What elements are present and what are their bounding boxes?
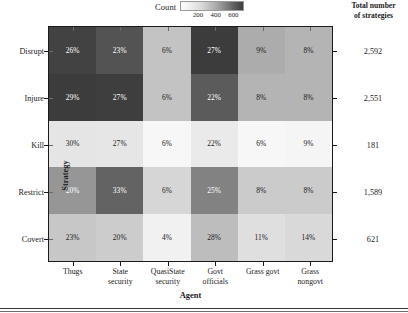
x-axis-tick <box>263 261 264 266</box>
row-label-restrict: Restrict <box>0 188 44 197</box>
y-axis-tick-inner <box>49 192 53 193</box>
heatmap-cell-label: 8% <box>303 46 313 55</box>
legend-tick-labels: 200400600 <box>180 11 242 21</box>
heatmap-cell-label: 8% <box>303 93 313 102</box>
heatmap-cell-label: 26% <box>66 46 80 55</box>
column-label-line: security <box>108 277 133 287</box>
row-total-value: 621 <box>341 235 405 244</box>
heatmap-cell[interactable]: 25% <box>191 167 238 214</box>
heatmap-cell-label: 6% <box>162 93 172 102</box>
row-total-value: 2,551 <box>341 93 405 102</box>
heatmap-cell[interactable]: 6% <box>238 121 285 168</box>
heatmap-cell[interactable]: 4% <box>143 214 190 261</box>
heatmap-cell-label: 14% <box>301 233 315 242</box>
heatmap-cell-label: 6% <box>256 139 266 148</box>
heatmap-cell-label: 27% <box>113 139 127 148</box>
y-axis-tick-right <box>332 145 337 146</box>
heatmap-cell-label: 8% <box>256 186 266 195</box>
heatmap-cell[interactable]: 9% <box>285 121 332 168</box>
y-axis-tick-right <box>332 98 337 99</box>
heatmap-cell-label: 28% <box>207 233 221 242</box>
legend-gradient-bar <box>180 1 244 11</box>
legend-title: Count <box>155 1 176 12</box>
heatmap-cell[interactable]: 20% <box>96 214 143 261</box>
row-total-value: 181 <box>341 141 405 150</box>
legend-gradient-wrap: 200400600 <box>180 1 244 21</box>
heatmap-cell-label: 29% <box>66 93 80 102</box>
heatmap-cell-label: 8% <box>303 186 313 195</box>
column-label: Statesecurity <box>108 267 133 286</box>
heatmap-cell[interactable]: 27% <box>96 74 143 121</box>
row-totals-header: Total numberof strategies <box>339 1 408 20</box>
heatmap-cell[interactable]: 8% <box>238 167 285 214</box>
column-label-line: officials <box>203 277 228 287</box>
heatmap-cell[interactable]: 26% <box>49 27 96 74</box>
column-label-line: QuasiState <box>151 267 185 277</box>
y-axis-tick-inner <box>49 98 53 99</box>
row-label-disrupt: Disrupt <box>0 46 44 55</box>
heatmap-cell[interactable]: 6% <box>143 121 190 168</box>
footer-rule-top <box>0 308 408 309</box>
heatmap-cell[interactable]: 33% <box>96 167 143 214</box>
footer-rule-bottom <box>0 311 408 312</box>
x-axis-tick-top <box>73 27 74 31</box>
heatmap-cell-label: 25% <box>207 186 221 195</box>
color-legend: Count 200400600 <box>155 1 244 25</box>
x-axis-tick-top <box>120 27 121 31</box>
heatmap-cell-label: 9% <box>303 139 313 148</box>
heatmap-cell[interactable]: 28% <box>191 214 238 261</box>
heatmap-cell-label: 11% <box>254 233 268 242</box>
heatmap-cell-label: 8% <box>256 93 266 102</box>
heatmap-cell[interactable]: 6% <box>143 27 190 74</box>
heatmap-cell[interactable]: 11% <box>238 214 285 261</box>
heatmap-cell[interactable]: 8% <box>285 167 332 214</box>
heatmap-cell[interactable]: 6% <box>143 74 190 121</box>
column-label: Grass govt <box>246 267 280 277</box>
row-totals-header-line: of strategies <box>339 11 408 21</box>
heatmap-cell-label: 23% <box>66 233 80 242</box>
heatmap-cell[interactable]: 9% <box>238 27 285 74</box>
heatmap-cell[interactable]: 6% <box>143 167 190 214</box>
y-axis-tick-inner <box>49 51 53 52</box>
heatmap-cell[interactable]: 8% <box>238 74 285 121</box>
heatmap-cell-label: 6% <box>162 46 172 55</box>
heatmap-cell[interactable]: 8% <box>285 74 332 121</box>
row-total-value: 2,592 <box>341 46 405 55</box>
heatmap-cell[interactable]: 23% <box>96 27 143 74</box>
heatmap-cell-label: 33% <box>113 186 127 195</box>
column-label-line: security <box>151 277 185 287</box>
heatmap-cell[interactable]: 22% <box>191 74 238 121</box>
x-axis-tick-top <box>310 27 311 31</box>
column-label-line: Grass govt <box>246 267 280 277</box>
heatmap-cell[interactable]: 27% <box>191 27 238 74</box>
heatmap-cell[interactable]: 29% <box>49 74 96 121</box>
column-label-line: nongovt <box>297 277 323 287</box>
y-axis-tick-right <box>332 51 337 52</box>
heatmap-cell-label: 20% <box>113 233 127 242</box>
heatmap-cell[interactable]: 23% <box>49 214 96 261</box>
row-label-injure: Injure <box>0 93 44 102</box>
heatmap-cell-label: 6% <box>162 186 172 195</box>
y-axis-tick-inner <box>49 145 53 146</box>
heatmap-cell[interactable]: 14% <box>285 214 332 261</box>
heatmap-cell[interactable]: 20% <box>49 167 96 214</box>
x-axis-tick-top <box>263 27 264 31</box>
heatmap-cell[interactable]: 22% <box>191 121 238 168</box>
y-axis-tick-right <box>332 192 337 193</box>
x-axis-tick <box>215 261 216 266</box>
heatmap-cell-label: 9% <box>256 46 266 55</box>
heatmap-cell[interactable]: 27% <box>96 121 143 168</box>
x-axis-title: Agent <box>48 291 333 300</box>
heatmap-cell-grid: 26%23%6%27%9%8%29%27%6%22%8%8%30%27%6%22… <box>49 27 332 261</box>
plot-area: 26%23%6%27%9%8%29%27%6%22%8%8%30%27%6%22… <box>48 26 333 262</box>
heatmap-cell-label: 27% <box>207 46 221 55</box>
x-axis-tick <box>168 261 169 266</box>
legend-tick: 400 <box>211 11 221 18</box>
row-label-covert: Covert <box>0 235 44 244</box>
row-label-kill: Kill <box>0 141 44 150</box>
heatmap-cell-label: 22% <box>207 139 221 148</box>
heatmap-cell[interactable]: 30% <box>49 121 96 168</box>
column-label: Thugs <box>63 267 83 277</box>
heatmap-cell-label: 27% <box>113 93 127 102</box>
heatmap-cell[interactable]: 8% <box>285 27 332 74</box>
